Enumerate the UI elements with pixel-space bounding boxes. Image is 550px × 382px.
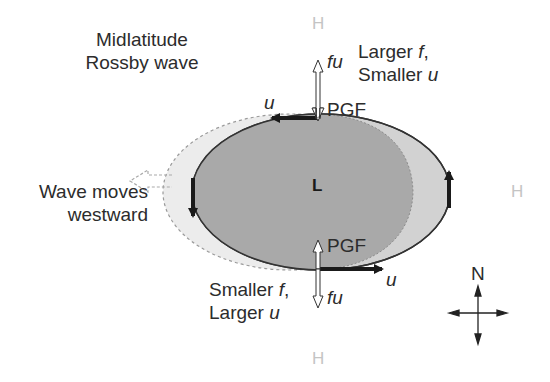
high-pressure-label-bottom: H (312, 349, 324, 369)
fu-label-bottom: fu (327, 286, 343, 309)
low-pressure-label: L (312, 176, 322, 196)
wave-direction-label: Wave moves westward (20, 180, 148, 226)
u-label-bottom: u (386, 268, 397, 291)
high-pressure-label-top: H (312, 14, 324, 34)
high-pressure-label-right: H (511, 182, 523, 202)
compass-north-label: N (471, 262, 485, 285)
south-annotation: Smaller f, Larger u (209, 278, 289, 324)
u-label-top: u (264, 91, 275, 114)
pgf-label-bottom: PGF (327, 234, 366, 257)
fu-pgf-arrows-bottom-icon (313, 240, 323, 308)
diagram-title: Midlatitude Rossby wave (82, 28, 202, 74)
pgf-label-top: PGF (327, 98, 366, 121)
north-annotation: Larger f, Smaller u (358, 40, 438, 86)
fu-label-top: fu (327, 50, 343, 73)
rossby-wave-diagram: Midlatitude Rossby wave Larger f, Smalle… (0, 0, 550, 382)
compass-icon (449, 286, 507, 344)
